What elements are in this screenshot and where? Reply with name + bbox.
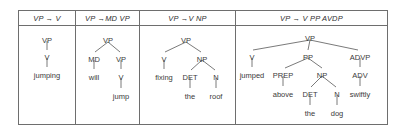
tree-node-fixing: fixing <box>155 73 173 82</box>
tree-node-roof: roof <box>210 92 223 101</box>
tree-node-the: the <box>305 109 315 118</box>
tree-node-prep: PREP <box>273 71 293 80</box>
tree-node-adv: ADV <box>352 71 367 80</box>
tree-node-md: MD <box>88 55 100 64</box>
tree-node-np: NP <box>197 55 207 64</box>
rule-header-vp-v: VP → V <box>19 11 76 25</box>
tree-cell-vp-md-vp: VPMDVPwillVjump <box>76 26 140 124</box>
tree-node-v: V <box>44 53 49 62</box>
tree-cell-vp-v: VPVjumping <box>19 26 76 124</box>
tree-node-vp: VP <box>103 36 113 45</box>
tree-node-vp: VP <box>42 36 52 45</box>
table-body-row: VPVjumping VPMDVPwillVjump VPVNPfixingDE… <box>19 26 387 124</box>
table-header-row: VP → V VP →MD VP VP →V NP VP → V PP AVDP <box>19 11 387 26</box>
tree-node-v: V <box>118 73 123 82</box>
tree-node-n: N <box>213 73 218 82</box>
tree-node-above: above <box>273 90 293 99</box>
tree-node-jump: jump <box>113 92 129 101</box>
tree-node-advp: ADVP <box>350 53 370 62</box>
tree-node-det: DET <box>183 73 198 82</box>
tree-node-the: the <box>185 92 195 101</box>
tree-edge <box>253 40 310 50</box>
tree-node-det: DET <box>303 90 318 99</box>
tree-node-v: V <box>161 55 166 64</box>
rule-header-vp-md-vp: VP →MD VP <box>76 11 140 25</box>
tree-node-n: N <box>334 90 339 99</box>
tree-node-jumped: jumped <box>240 71 265 80</box>
rule-header-vp-v-np: VP →V NP <box>140 11 236 25</box>
tree-node-vp: VP <box>116 55 126 64</box>
rule-header-vp-v-pp-advp: VP → V PP AVDP <box>236 11 387 25</box>
tree-cell-vp-v-pp-advp: VPVPPADVPjumpedPREPNPADVaboveDETNswiftly… <box>236 26 387 124</box>
tree-node-dog: dog <box>331 109 344 118</box>
tree-node-swiftly: swiftly <box>350 90 370 99</box>
tree-node-v: V <box>249 53 254 62</box>
tree-cell-vp-v-np: VPVNPfixingDETNtheroof <box>140 26 236 124</box>
tree-node-jumping: jumping <box>34 71 60 80</box>
tree-node-vp: VP <box>305 34 315 43</box>
grammar-rules-table: VP → V VP →MD VP VP →V NP VP → V PP AVDP… <box>18 10 388 125</box>
tree-edge <box>310 40 358 50</box>
tree-node-will: will <box>89 73 99 82</box>
tree-node-np: NP <box>317 71 327 80</box>
tree-node-pp: PP <box>303 53 313 62</box>
tree-node-vp: VP <box>181 36 191 45</box>
